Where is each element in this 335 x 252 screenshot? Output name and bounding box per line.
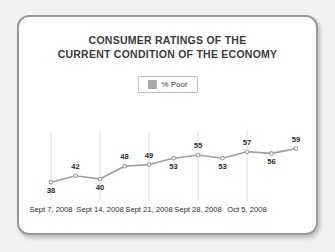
data-label: 48 bbox=[120, 152, 128, 161]
data-point-marker bbox=[245, 150, 249, 154]
data-label: 40 bbox=[96, 183, 104, 192]
x-axis-tick-label: Sept 28, 2008 bbox=[174, 205, 221, 214]
data-label: 59 bbox=[292, 135, 300, 144]
data-label: 57 bbox=[243, 138, 251, 147]
data-point-marker bbox=[196, 153, 200, 157]
data-label: 56 bbox=[267, 157, 275, 166]
chart-card: CONSUMER RATINGS OF THE CURRENT CONDITIO… bbox=[17, 15, 318, 235]
chart-title-line-1: CONSUMER RATINGS OF THE bbox=[19, 33, 316, 47]
chart-legend: % Poor bbox=[137, 76, 197, 93]
data-label: 38 bbox=[47, 186, 55, 195]
x-axis-tick-label: Sept 21, 2008 bbox=[125, 205, 172, 214]
data-label: 53 bbox=[218, 162, 226, 171]
data-point-marker bbox=[147, 163, 151, 167]
data-point-marker bbox=[98, 177, 102, 181]
data-point-marker bbox=[270, 152, 274, 156]
legend-label-percent-poor: % Poor bbox=[161, 80, 187, 89]
chart-title-line-2: CURRENT CONDITION OF THE ECONOMY bbox=[19, 47, 316, 61]
data-point-marker bbox=[123, 164, 127, 168]
legend-swatch-percent-poor bbox=[147, 80, 156, 89]
data-label: 42 bbox=[71, 162, 79, 171]
data-label: 53 bbox=[169, 162, 177, 171]
data-label: 49 bbox=[145, 151, 153, 160]
x-axis-tick-label: Sept 14, 2008 bbox=[76, 205, 123, 214]
data-point-marker bbox=[172, 156, 176, 160]
data-point-marker bbox=[294, 147, 298, 151]
x-axis-tick-label: Sept 7, 2008 bbox=[29, 205, 72, 214]
x-axis-tick-label: Oct 5, 2008 bbox=[227, 205, 266, 214]
x-axis-tick-labels: Sept 7, 2008Sept 14, 2008Sept 21, 2008Se… bbox=[29, 205, 310, 221]
data-point-marker bbox=[49, 180, 53, 184]
data-point-marker bbox=[74, 174, 78, 178]
chart-screenshot: CONSUMER RATINGS OF THE CURRENT CONDITIO… bbox=[0, 0, 335, 252]
data-label: 55 bbox=[194, 141, 202, 150]
data-point-marker bbox=[221, 156, 225, 160]
chart-title: CONSUMER RATINGS OF THE CURRENT CONDITIO… bbox=[19, 33, 316, 61]
